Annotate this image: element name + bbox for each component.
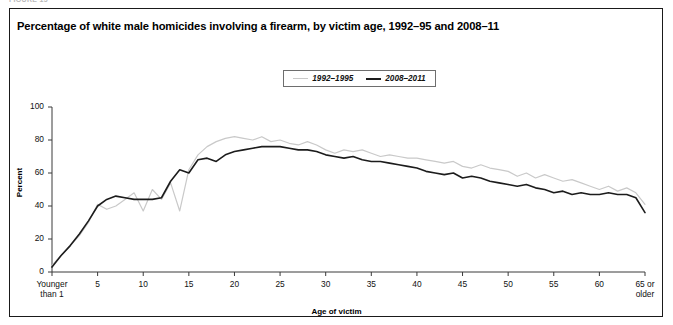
legend-label-1992-1995: 1992–1995: [312, 74, 353, 83]
chart-legend: 1992–1995 2008–2011: [283, 70, 436, 87]
figure-title: Percentage of white male homicides invol…: [17, 20, 499, 32]
figure-page: FIGURE 15 Percentage of white male homic…: [0, 0, 673, 325]
legend-swatch-2008-2011: [366, 78, 381, 80]
figure-frame: [9, 8, 663, 317]
figure-caption: FIGURE 15: [9, 0, 48, 3]
legend-label-2008-2011: 2008–2011: [385, 74, 425, 83]
legend-item-1992-1995: 1992–1995: [293, 74, 353, 83]
legend-swatch-1992-1995: [293, 78, 308, 79]
legend-item-2008-2011: 2008–2011: [366, 74, 425, 83]
